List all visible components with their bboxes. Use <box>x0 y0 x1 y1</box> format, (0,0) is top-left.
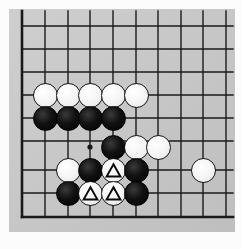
triangle-marker-icon <box>79 182 102 205</box>
stone-black[interactable] <box>56 181 81 206</box>
stone-white[interactable] <box>101 83 126 108</box>
stone-white[interactable] <box>78 83 103 108</box>
stone-black[interactable] <box>124 158 149 183</box>
stone-black[interactable] <box>101 106 126 131</box>
stone-white[interactable] <box>146 135 171 160</box>
stone-white[interactable] <box>124 135 149 160</box>
triangle-marker-icon <box>102 159 125 182</box>
stone-black[interactable] <box>78 158 103 183</box>
page-background <box>0 0 242 249</box>
triangle-marker-icon <box>102 182 125 205</box>
stone-white[interactable] <box>124 83 149 108</box>
stone-black[interactable] <box>101 135 126 160</box>
stone-black[interactable] <box>33 106 58 131</box>
stone-white-marked[interactable] <box>101 181 126 206</box>
stone-white[interactable] <box>33 83 58 108</box>
stone-white-marked[interactable] <box>78 181 103 206</box>
stone-white-marked[interactable] <box>101 158 126 183</box>
stone-white[interactable] <box>191 158 216 183</box>
stones-layer <box>0 0 242 249</box>
stone-black[interactable] <box>56 106 81 131</box>
stone-black[interactable] <box>124 181 149 206</box>
stone-white[interactable] <box>56 83 81 108</box>
stone-black[interactable] <box>78 106 103 131</box>
stone-white[interactable] <box>56 158 81 183</box>
